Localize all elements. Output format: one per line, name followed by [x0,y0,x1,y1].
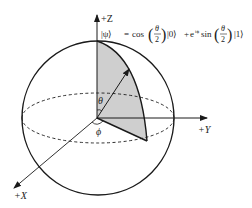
x-axis-label: +X [14,190,28,201]
svg-text:+: + [184,29,189,39]
svg-text:cos: cos [132,29,144,39]
state-formula: |ψ⟩ = cos ( θ 2 ) |0⟩ + e iϕ sin ( θ 2 )… [101,24,244,44]
svg-text:iϕ: iϕ [195,29,199,34]
svg-text:): ) [161,26,166,44]
svg-text:(: ( [148,26,153,44]
bloch-sphere-diagram: +Z +Y +X θ ϕ |ψ⟩ = cos ( θ 2 ) |0⟩ + e i… [0,0,252,208]
shaded-meridian-region [97,41,147,141]
svg-text:sin: sin [201,29,212,39]
svg-text:2: 2 [221,35,225,44]
x-axis [14,118,97,188]
svg-text:θ: θ [155,24,159,33]
svg-text:|ψ⟩: |ψ⟩ [101,29,112,39]
svg-text:): ) [227,26,232,44]
z-axis-label: +Z [101,13,113,24]
phi-arc [92,121,103,124]
svg-text:|1⟩: |1⟩ [234,29,244,39]
svg-text:e: e [190,29,194,39]
y-axis-label: +Y [198,124,212,135]
theta-label: θ [98,95,103,106]
svg-text:|0⟩: |0⟩ [167,29,177,39]
svg-text:(: ( [214,26,219,44]
phi-label: ϕ [96,126,101,137]
svg-text:θ: θ [221,24,225,33]
svg-text:2: 2 [155,35,159,44]
svg-text:=: = [124,29,129,39]
